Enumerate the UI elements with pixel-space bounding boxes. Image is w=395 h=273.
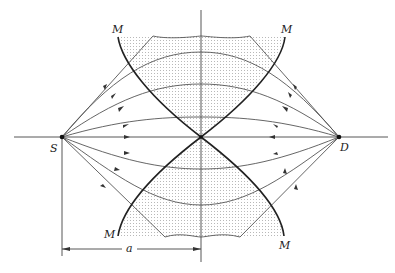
arrow-icon <box>118 106 124 112</box>
label-source: S <box>50 142 58 155</box>
arrow-icon <box>114 167 120 171</box>
arrow-icon <box>111 93 116 99</box>
arrow-icon <box>283 168 287 174</box>
arrow-icon <box>269 135 275 139</box>
arrow-icon <box>103 84 107 90</box>
arrow-icon <box>124 151 130 155</box>
arrow-icon <box>124 135 130 139</box>
label-detector: D <box>339 141 349 154</box>
arrow-icon <box>123 124 129 128</box>
arrow-icon <box>273 124 278 128</box>
arrow-icon <box>294 184 298 190</box>
label-mirror-bottom-right: M <box>278 239 291 252</box>
label-distance-a: a <box>126 242 133 255</box>
arrow-icon <box>273 152 278 155</box>
diagram-canvas: S D M M M M a <box>0 0 395 273</box>
label-mirror-top-left: M <box>111 23 124 36</box>
detector-point <box>337 135 342 140</box>
label-mirror-bottom-left: M <box>103 228 116 241</box>
source-point <box>60 135 65 140</box>
arrow-icon <box>288 92 292 98</box>
label-mirror-top-right: M <box>280 23 293 36</box>
center-point <box>199 135 203 139</box>
arrow-icon <box>100 184 106 188</box>
arrow-icon <box>282 106 288 112</box>
